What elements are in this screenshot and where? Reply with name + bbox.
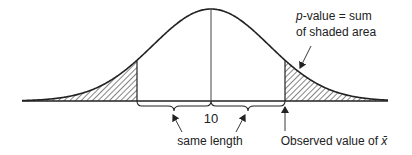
arrow-same-length-right (236, 115, 245, 132)
same-length-label: same length (177, 134, 242, 148)
left-tail-shaded-area (22, 60, 137, 101)
pvalue-diagram: 10 same length Observed value of x̄ p-va… (0, 0, 412, 155)
pvalue-annotation-line1: p-value = sum (295, 9, 372, 23)
arrow-same-length-left (173, 115, 182, 132)
observed-value-label: Observed value of x̄ (281, 134, 389, 148)
arrow-pvalue (300, 46, 311, 68)
center-value-label: 10 (204, 111, 218, 126)
brace (137, 101, 285, 111)
pvalue-annotation-line2: of shaded area (296, 25, 376, 39)
